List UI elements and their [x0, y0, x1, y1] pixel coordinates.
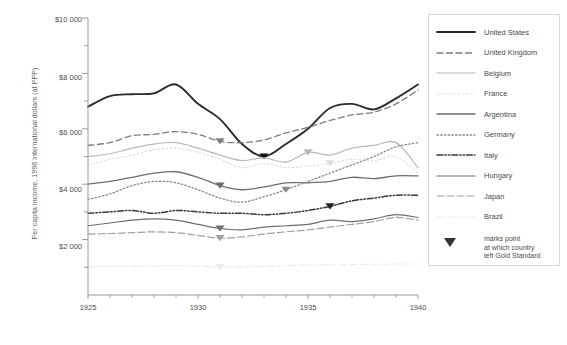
legend-line-swatch [435, 27, 477, 37]
legend-item-brazil[interactable]: Brazil [435, 207, 553, 228]
legend-line-swatch [435, 89, 477, 99]
legend-gold-standard-note: marks point at which country left Gold S… [435, 235, 553, 261]
legend-note-line-1: marks point [484, 235, 540, 244]
legend-items: United StatesUnited KingdomBelgiumFrance… [435, 22, 553, 227]
legend-item-label: France [484, 89, 507, 98]
legend-item-germany[interactable]: Germany [435, 125, 553, 146]
legend-item-united-kingdom[interactable]: United Kingdom [435, 43, 553, 64]
legend-line-swatch [435, 212, 477, 222]
legend-item-label: Argentina [484, 110, 516, 119]
legend-line-swatch [435, 48, 477, 58]
legend-line-swatch [435, 150, 477, 160]
legend-item-argentina[interactable]: Argentina [435, 104, 553, 125]
legend-note-line-2: at which country [484, 244, 540, 253]
legend-item-hungary[interactable]: Hungary [435, 166, 553, 187]
legend-line-swatch [435, 191, 477, 201]
legend-item-label: United States [484, 28, 529, 37]
chart-figure: Per capita income, 1996 international do… [0, 0, 567, 345]
legend-item-label: Germany [484, 130, 515, 139]
legend-item-belgium[interactable]: Belgium [435, 63, 553, 84]
legend-line-swatch [435, 171, 477, 181]
gold-standard-marker-icon [435, 236, 477, 246]
legend-line-swatch [435, 130, 477, 140]
legend-item-label: Italy [484, 151, 498, 160]
legend-item-label: Belgium [484, 69, 511, 78]
legend-note-line-3: left Gold Standard [484, 252, 540, 261]
legend-line-swatch [435, 109, 477, 119]
chart-legend: United StatesUnited KingdomBelgiumFrance… [428, 14, 560, 266]
legend-line-swatch [435, 68, 477, 78]
legend-item-label: United Kingdom [484, 48, 537, 57]
legend-item-france[interactable]: France [435, 84, 553, 105]
legend-item-label: Japan [484, 192, 504, 201]
legend-item-italy[interactable]: Italy [435, 145, 553, 166]
legend-item-label: Hungary [484, 171, 512, 180]
legend-item-united-states[interactable]: United States [435, 22, 553, 43]
legend-item-label: Brazil [484, 212, 503, 221]
legend-item-japan[interactable]: Japan [435, 186, 553, 207]
